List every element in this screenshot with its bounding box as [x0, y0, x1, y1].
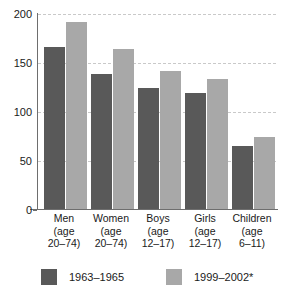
- legend-entry-1963-1965: 1963–1965: [41, 269, 124, 285]
- x-label-children-line1: Children: [224, 212, 280, 225]
- bar-boys-1963-1965: [138, 88, 159, 211]
- x-label-children-line3: 6–11): [224, 237, 280, 250]
- legend-label-1999-2002: 1999–2002*: [194, 271, 253, 284]
- bars-layer: [38, 14, 276, 210]
- legend-entry-1999-2002: 1999–2002*: [166, 269, 253, 285]
- y-tick-dash-0: [33, 210, 37, 211]
- legend-swatch-1999-2002: [166, 269, 182, 285]
- x-label-children: Children (age 6–11): [224, 212, 280, 250]
- bar-group-women: [89, 14, 134, 210]
- y-tick-label-50: 50: [0, 156, 32, 167]
- y-tick-label-150: 150: [0, 58, 32, 69]
- bar-women-1963-1965: [91, 74, 112, 210]
- bar-group-men: [42, 14, 87, 210]
- x-label-children-line2: (age: [224, 225, 280, 238]
- bar-children-1999-2002: [254, 137, 275, 211]
- y-axis-ticks: 200 150 100 50 0: [0, 14, 32, 210]
- y-axis-line: [37, 13, 38, 210]
- bar-group-boys: [136, 14, 181, 210]
- bar-group-children: [230, 14, 275, 210]
- legend-label-1963-1965: 1963–1965: [69, 271, 124, 284]
- bar-chart-figure: 200 150 100 50 0 Men (age 20–74) Women (…: [0, 0, 290, 308]
- bar-boys-1999-2002: [160, 71, 181, 210]
- bar-girls-1999-2002: [207, 79, 228, 210]
- y-tick-label-0: 0: [0, 205, 32, 216]
- bar-girls-1963-1965: [185, 93, 206, 210]
- bar-children-1963-1965: [232, 146, 253, 210]
- chart-legend: 1963–1965 1999–2002*: [0, 269, 290, 295]
- legend-swatch-1963-1965: [41, 269, 57, 285]
- x-axis-line: [30, 209, 278, 210]
- y-tick-label-100: 100: [0, 107, 32, 118]
- bar-women-1999-2002: [113, 49, 134, 210]
- bar-men-1963-1965: [44, 47, 65, 210]
- bar-group-girls: [183, 14, 228, 210]
- bar-men-1999-2002: [66, 22, 87, 210]
- x-axis-labels: Men (age 20–74) Women (age 20–74) Boys (…: [38, 212, 276, 258]
- y-tick-label-200: 200: [0, 9, 32, 20]
